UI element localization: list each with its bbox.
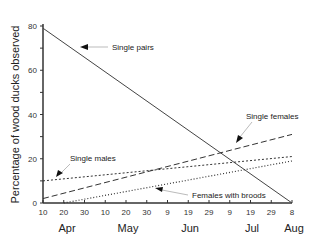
annotation-single-females: Single females [246, 112, 298, 121]
x-tick-label: 20 [122, 208, 131, 217]
x-tick-label: 8 [290, 208, 295, 217]
y-tick-label: 40 [28, 111, 37, 120]
y-tick-label: 0 [33, 199, 38, 208]
annotation-females-with-broods: Females with broods [192, 191, 266, 200]
x-tick-label: 30 [142, 208, 151, 217]
x-tick-label: 10 [101, 208, 110, 217]
arrow-icon [56, 170, 63, 177]
annotation-single-pairs: Single pairs [112, 43, 154, 52]
x-tick-label: 20 [59, 208, 68, 217]
annotation-arrow-line [162, 190, 188, 195]
annotation-arrow-line [240, 122, 252, 137]
x-tick-label: 9 [165, 208, 170, 217]
y-tick-label: 20 [28, 155, 37, 164]
arrow-icon [80, 44, 88, 50]
x-month-label: Apr [58, 222, 75, 234]
x-tick-label: 10 [39, 208, 48, 217]
x-tick-label: 29 [205, 208, 214, 217]
y-tick-label: 60 [28, 66, 37, 75]
x-tick-label: 9 [228, 208, 233, 217]
annotation-arrow-line [62, 164, 70, 172]
x-tick-label: 19 [184, 208, 193, 217]
x-tick-label: 29 [267, 208, 276, 217]
annotation-single-males: Single males [70, 154, 116, 163]
x-month-label: Jun [181, 222, 199, 234]
series-single-females [43, 134, 292, 198]
line-chart: 02040608010203010203091929919298AprMayJu… [0, 0, 317, 245]
y-axis-label: Percentage of wood ducks observed [9, 26, 21, 204]
arrow-icon [155, 187, 163, 192]
x-month-label: May [118, 222, 139, 234]
y-tick-label: 80 [28, 22, 37, 31]
x-tick-label: 19 [246, 208, 255, 217]
arrow-icon [236, 135, 243, 143]
x-tick-label: 30 [80, 208, 89, 217]
x-month-label: Aug [284, 222, 304, 234]
x-month-label: Jul [245, 222, 259, 234]
